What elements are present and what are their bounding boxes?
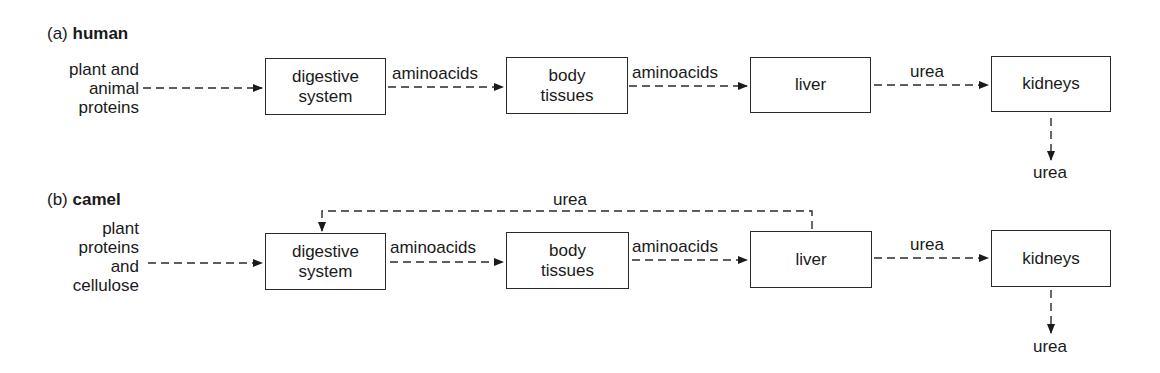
edge-label-aminoacids-b2: aminoacids [632,237,718,257]
source-line: proteins [19,238,139,257]
source-line: plant [19,219,139,238]
box-text: kidneys [1022,249,1080,269]
arrow-liver-to-digestive-feedback [322,211,812,231]
box-text: system [292,262,359,282]
section-title: human [73,24,129,43]
box-digestive-system-b: digestive system [265,233,386,290]
box-text: digestive [292,242,359,262]
section-prefix: (b) [47,190,68,209]
box-text: tissues [541,86,594,106]
output-label-urea-b: urea [1033,337,1067,357]
box-body-tissues-b: body tissues [506,232,629,289]
box-text: kidneys [1022,74,1080,94]
edge-label-aminoacids-a2: aminoacids [632,63,718,83]
box-text: liver [795,75,826,95]
box-text: liver [795,250,826,270]
edge-label-aminoacids-a1: aminoacids [392,64,478,84]
edge-label-urea-a: urea [910,62,944,82]
source-text-camel: plant proteins and cellulose [19,219,139,295]
source-line: and [19,257,139,276]
box-body-tissues-a: body tissues [506,57,628,114]
section-prefix: (a) [47,24,68,43]
section-label-human: (a) human [47,24,128,44]
box-kidneys-a: kidneys [991,56,1111,112]
edge-label-aminoacids-b1: aminoacids [390,238,476,258]
box-liver-a: liver [750,57,871,113]
box-digestive-system-a: digestive system [265,58,386,115]
box-liver-b: liver [750,231,872,288]
source-line: animal [19,79,139,98]
section-title: camel [73,190,121,209]
output-label-urea-a: urea [1033,163,1067,183]
source-text-human: plant and animal proteins [19,60,139,117]
edge-label-urea-feedback: urea [553,190,587,210]
box-text: tissues [541,261,594,281]
source-line: cellulose [19,276,139,295]
box-text: system [292,87,359,107]
connector-layer [0,0,1160,373]
box-text: body [541,66,594,86]
box-text: body [541,241,594,261]
edge-label-urea-b: urea [910,235,944,255]
source-line: plant and [19,60,139,79]
source-line: proteins [19,98,139,117]
section-label-camel: (b) camel [47,190,121,210]
box-kidneys-b: kidneys [991,230,1111,287]
box-text: digestive [292,67,359,87]
